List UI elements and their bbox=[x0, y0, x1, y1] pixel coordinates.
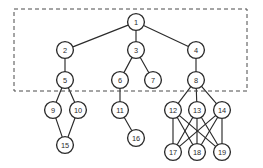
graph-node-19[interactable]: 19 bbox=[214, 144, 231, 161]
graph-edge-8-14 bbox=[201, 86, 217, 104]
graph-node-12[interactable]: 12 bbox=[165, 102, 182, 119]
graph-edge-3-7 bbox=[140, 57, 149, 73]
graph-node-8[interactable]: 8 bbox=[188, 72, 205, 89]
graph-svg: 12345678910111213141516171819 bbox=[0, 0, 263, 168]
graph-node-3[interactable]: 3 bbox=[128, 42, 145, 59]
graph-edge-9-15 bbox=[56, 117, 63, 137]
graph-node-5[interactable]: 5 bbox=[57, 72, 74, 89]
graph-edge-11-16 bbox=[124, 117, 132, 131]
graph-node-6[interactable]: 6 bbox=[112, 72, 129, 89]
graph-node-13[interactable]: 13 bbox=[189, 102, 206, 119]
node-label-14: 14 bbox=[218, 106, 226, 115]
node-label-4: 4 bbox=[194, 46, 198, 55]
graph-edge-5-10 bbox=[68, 87, 75, 103]
graph-edge-5-9 bbox=[56, 87, 62, 103]
graph-node-14[interactable]: 14 bbox=[214, 102, 231, 119]
node-label-15: 15 bbox=[61, 141, 69, 150]
graph-edge-10-15 bbox=[68, 117, 76, 137]
node-label-7: 7 bbox=[151, 76, 155, 85]
diagram-canvas: 12345678910111213141516171819 bbox=[0, 0, 263, 168]
graph-node-18[interactable]: 18 bbox=[189, 144, 206, 161]
node-label-10: 10 bbox=[74, 106, 82, 115]
node-label-19: 19 bbox=[218, 148, 226, 157]
node-label-5: 5 bbox=[63, 76, 67, 85]
node-label-1: 1 bbox=[134, 18, 138, 27]
graph-node-16[interactable]: 16 bbox=[128, 130, 145, 147]
graph-edge-1-4 bbox=[143, 25, 189, 46]
node-label-8: 8 bbox=[194, 76, 198, 85]
graph-node-15[interactable]: 15 bbox=[57, 137, 74, 154]
node-label-9: 9 bbox=[51, 106, 55, 115]
node-label-17: 17 bbox=[169, 148, 177, 157]
graph-node-1[interactable]: 1 bbox=[128, 14, 145, 31]
node-label-2: 2 bbox=[63, 46, 67, 55]
graph-edge-3-6 bbox=[124, 57, 133, 73]
graph-edge-8-12 bbox=[178, 86, 192, 104]
node-label-13: 13 bbox=[193, 106, 201, 115]
node-label-12: 12 bbox=[169, 106, 177, 115]
node-label-18: 18 bbox=[193, 148, 201, 157]
graph-edge-1-2 bbox=[72, 25, 128, 47]
graph-node-9[interactable]: 9 bbox=[45, 102, 62, 119]
node-label-11: 11 bbox=[116, 106, 123, 115]
graph-node-2[interactable]: 2 bbox=[57, 42, 74, 59]
graph-node-7[interactable]: 7 bbox=[145, 72, 162, 89]
graph-node-11[interactable]: 11 bbox=[112, 102, 129, 119]
graph-node-10[interactable]: 10 bbox=[70, 102, 87, 119]
node-label-16: 16 bbox=[132, 134, 140, 143]
node-label-3: 3 bbox=[134, 46, 138, 55]
graph-node-4[interactable]: 4 bbox=[188, 42, 205, 59]
node-label-6: 6 bbox=[118, 76, 122, 85]
graph-node-17[interactable]: 17 bbox=[165, 144, 182, 161]
